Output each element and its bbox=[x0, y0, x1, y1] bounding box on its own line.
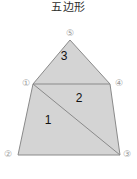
vertex-label-3: ③ bbox=[121, 149, 133, 160]
region-label-3: 3 bbox=[57, 50, 71, 62]
figure-caption bbox=[0, 170, 137, 179]
vertex-label-2: ② bbox=[2, 149, 14, 160]
vertex-label-4: ④ bbox=[113, 78, 125, 89]
vertex-label-5: ⑤ bbox=[64, 28, 76, 39]
vertex-label-1: ① bbox=[20, 78, 32, 89]
pentagon-figure: 五边形 1 2 3 ① ② ③ ④ ⑤ bbox=[0, 0, 137, 179]
region-label-1: 1 bbox=[41, 114, 55, 126]
region-label-2: 2 bbox=[72, 92, 86, 104]
pentagon-diagram bbox=[0, 0, 137, 179]
